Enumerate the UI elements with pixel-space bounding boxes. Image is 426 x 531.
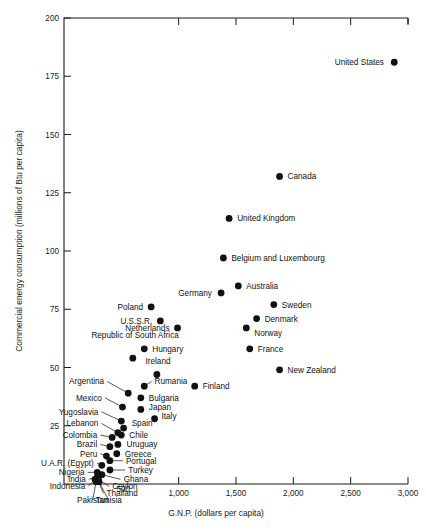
data-point-label: Portugal xyxy=(126,457,157,466)
data-point-marker[interactable] xyxy=(226,215,233,222)
data-point-marker[interactable] xyxy=(118,432,125,439)
data-point-marker[interactable] xyxy=(113,450,120,457)
data-point-marker[interactable] xyxy=(109,434,116,441)
data-point-label: Belgium and Luxembourg xyxy=(231,254,325,263)
x-axis-title: G.N.P. (dollars per capita) xyxy=(168,508,264,518)
data-point[interactable]: Portugal xyxy=(126,457,157,466)
data-point-label: Australia xyxy=(246,282,278,291)
data-point-marker[interactable] xyxy=(391,59,398,66)
data-point-marker[interactable] xyxy=(235,283,242,290)
data-point[interactable]: Poland xyxy=(118,303,144,312)
data-point-marker[interactable] xyxy=(96,478,103,485)
data-point-label: Peru xyxy=(80,450,98,459)
x-tick-label: 3,000 xyxy=(398,489,419,498)
data-point-marker[interactable] xyxy=(243,324,250,331)
data-point-marker[interactable] xyxy=(148,304,155,311)
data-point[interactable]: Mexico xyxy=(76,394,102,403)
data-point[interactable]: Argentina xyxy=(69,377,104,386)
data-point-marker[interactable] xyxy=(153,371,160,378)
data-point-marker[interactable] xyxy=(106,457,113,464)
data-point-marker[interactable] xyxy=(119,404,126,411)
data-point-label: Hungary xyxy=(152,345,184,354)
data-point[interactable]: U.A.R. (Egypt) xyxy=(41,459,94,468)
data-point-marker[interactable] xyxy=(129,355,136,362)
data-point-marker[interactable] xyxy=(118,418,125,425)
data-point[interactable]: Rumania xyxy=(155,377,188,386)
data-point[interactable]: Finland xyxy=(203,382,230,391)
data-point-marker[interactable] xyxy=(141,383,148,390)
data-point-marker[interactable] xyxy=(114,441,121,448)
data-point[interactable]: New Zealand xyxy=(288,366,337,375)
data-point[interactable]: Bulgaria xyxy=(149,394,179,403)
data-point[interactable]: United Kingdom xyxy=(237,214,295,223)
data-point-marker[interactable] xyxy=(270,301,277,308)
data-point[interactable]: Lebanon xyxy=(67,419,99,428)
y-tick-label: 175 xyxy=(45,72,59,81)
data-point[interactable]: Chile xyxy=(129,431,148,440)
data-point[interactable]: Italy xyxy=(161,412,177,421)
data-point[interactable]: Colombia xyxy=(63,431,98,440)
data-point[interactable]: Canada xyxy=(288,172,317,181)
data-point-marker[interactable] xyxy=(157,318,164,325)
data-point-label: Germany xyxy=(178,289,213,298)
data-point[interactable]: Turkey xyxy=(128,466,154,475)
data-point-marker[interactable] xyxy=(276,173,283,180)
data-point-marker[interactable] xyxy=(246,345,253,352)
data-point-label: Poland xyxy=(118,303,144,312)
data-point[interactable]: Yugoslavia xyxy=(59,408,99,417)
data-point-marker[interactable] xyxy=(276,366,283,373)
data-point[interactable]: Spain xyxy=(132,419,153,428)
data-point[interactable]: Ireland xyxy=(146,357,171,366)
scatter-chart-figure: 2550751001251501752005001,0001,5002,0002… xyxy=(0,0,426,531)
data-point-marker[interactable] xyxy=(253,315,260,322)
data-point[interactable]: Uruguay xyxy=(126,440,158,449)
data-point-marker[interactable] xyxy=(151,415,158,422)
data-point-label: France xyxy=(258,345,284,354)
data-point-marker[interactable] xyxy=(218,290,225,297)
data-point[interactable]: Brazil xyxy=(77,440,98,449)
data-point-label: U.A.R. (Egypt) xyxy=(41,459,94,468)
data-point[interactable]: Denmark xyxy=(265,315,299,324)
data-point[interactable]: Belgium and Luxembourg xyxy=(231,254,325,263)
y-tick-label: 125 xyxy=(45,189,59,198)
y-tick-label: 50 xyxy=(50,364,60,373)
y-tick-label: 200 xyxy=(45,14,59,23)
data-point-marker[interactable] xyxy=(120,425,127,432)
data-point-marker[interactable] xyxy=(220,255,227,262)
y-tick-label: 100 xyxy=(45,247,59,256)
data-point[interactable]: Sweden xyxy=(282,301,312,310)
y-axis-title: Commercial energy consumption (millions … xyxy=(14,130,24,352)
point-leader-line xyxy=(107,381,128,393)
data-point-label: Ireland xyxy=(146,357,171,366)
chart-canvas: 2550751001251501752005001,0001,5002,0002… xyxy=(0,0,426,531)
data-point-marker[interactable] xyxy=(137,394,144,401)
data-point-label: Spain xyxy=(132,419,153,428)
data-point[interactable]: Germany xyxy=(178,289,213,298)
data-point[interactable]: Peru xyxy=(80,450,98,459)
data-point[interactable]: Norway xyxy=(254,329,283,338)
data-point-marker[interactable] xyxy=(125,390,132,397)
x-tick-label: 2,000 xyxy=(283,489,304,498)
data-point[interactable]: Hungary xyxy=(152,345,184,354)
data-point-label: Mexico xyxy=(76,394,102,403)
data-point-label: Uruguay xyxy=(126,440,158,449)
data-point-marker[interactable] xyxy=(106,443,113,450)
data-point-label: Denmark xyxy=(265,315,299,324)
data-point-marker[interactable] xyxy=(106,467,113,474)
plot-frame-left-top xyxy=(64,18,408,484)
x-tick-label: 2,500 xyxy=(340,489,361,498)
data-point-label: Norway xyxy=(254,329,283,338)
data-point[interactable]: Tunisia xyxy=(96,496,123,505)
data-point[interactable]: United States xyxy=(335,58,384,67)
data-point[interactable]: Republic of South Africa xyxy=(91,331,179,340)
data-point-marker[interactable] xyxy=(174,324,181,331)
data-point[interactable]: Australia xyxy=(246,282,278,291)
data-point-marker[interactable] xyxy=(98,462,105,469)
data-point-marker[interactable] xyxy=(191,383,198,390)
data-point[interactable]: France xyxy=(258,345,284,354)
data-point[interactable]: Indonesia xyxy=(50,482,86,491)
data-point-marker[interactable] xyxy=(141,345,148,352)
data-point-marker[interactable] xyxy=(137,406,144,413)
data-point-label: Turkey xyxy=(128,466,154,475)
data-point[interactable]: Japan xyxy=(149,403,172,412)
